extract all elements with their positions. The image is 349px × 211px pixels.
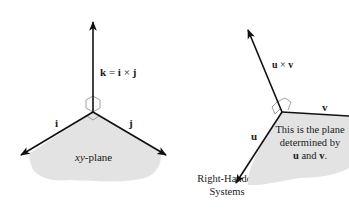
caption-line-2: Systems — [209, 186, 244, 197]
i-label: i — [55, 117, 58, 129]
u-cross-v-vector — [248, 30, 282, 112]
right-handed-systems-diagram: k = i × j i j xy-plane Right-Handed Syst… — [0, 0, 349, 211]
u-cross-v-label: u × v — [272, 59, 293, 70]
j-label: j — [128, 117, 133, 129]
xy-plane-label: xy-plane — [74, 151, 112, 163]
k-equals-i-cross-j-label: k = i × j — [100, 66, 136, 78]
v-label: v — [322, 101, 328, 113]
left-diagram: k = i × j i j xy-plane — [21, 22, 166, 181]
uv-plane-shape — [248, 112, 349, 185]
xy-plane-shape — [29, 112, 161, 181]
u-label: u — [251, 130, 257, 142]
plane-text-line-2: determined by — [280, 137, 341, 148]
plane-text-line-1: This is the plane — [275, 124, 344, 135]
right-diagram: u × v v u This is the plane determined b… — [236, 30, 349, 185]
plane-text-line-3: u and v. — [293, 150, 327, 161]
